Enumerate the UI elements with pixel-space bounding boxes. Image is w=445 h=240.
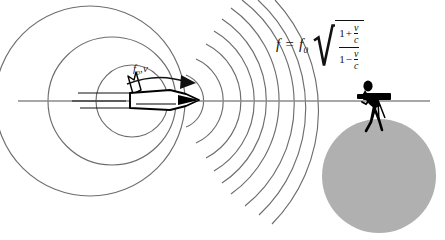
source-velocity-symbol: v bbox=[143, 62, 148, 74]
doppler-figure: f0,v f = f0 1+vc 1−vc bbox=[0, 0, 445, 240]
formula-f0-subscript: 0 bbox=[304, 45, 309, 55]
formula-equals: = bbox=[285, 36, 295, 52]
velocity-arrow-head bbox=[180, 75, 196, 89]
telescope-barrel bbox=[363, 93, 391, 100]
square-root-icon bbox=[313, 19, 335, 72]
denominator-one: 1 bbox=[339, 54, 345, 66]
formula-fraction: 1+vc 1−vc bbox=[339, 23, 359, 71]
denominator-c: c bbox=[354, 59, 358, 71]
numerator-c: c bbox=[354, 33, 358, 45]
numerator-one: 1 bbox=[339, 28, 345, 40]
telescope-eyepiece bbox=[357, 94, 364, 99]
numerator-sign: + bbox=[346, 28, 352, 40]
doppler-formula: f = f0 1+vc 1−vc bbox=[276, 14, 436, 76]
exhaust-streaks bbox=[72, 93, 132, 108]
planet-sphere bbox=[322, 119, 436, 233]
source-frequency-velocity-label: f0,v bbox=[133, 62, 148, 77]
formula-numerator: 1+vc bbox=[339, 23, 359, 46]
wavefront-group bbox=[0, 0, 318, 224]
denominator-v-over-c: vc bbox=[354, 49, 358, 71]
numerator-v: v bbox=[354, 23, 358, 33]
denominator-sign: − bbox=[346, 54, 352, 66]
formula-denominator: 1−vc bbox=[339, 47, 359, 71]
observer-head bbox=[363, 81, 372, 92]
denominator-v: v bbox=[354, 49, 358, 59]
formula-f: f bbox=[276, 36, 280, 52]
formula-radical: 1+vc 1−vc bbox=[313, 19, 364, 72]
numerator-v-over-c: vc bbox=[354, 23, 358, 45]
formula-radicand: 1+vc 1−vc bbox=[335, 20, 364, 72]
formula-left-hand-side: f = f0 bbox=[276, 36, 308, 55]
